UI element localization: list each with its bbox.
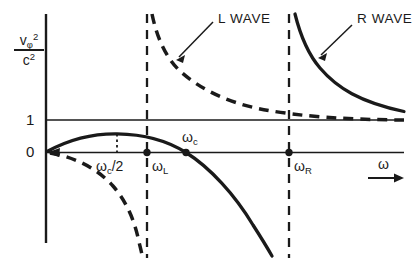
omega-c-subscript: c — [193, 136, 198, 147]
omega-c-label: ωc — [182, 130, 198, 144]
r-wave-leader-arrow — [318, 25, 352, 61]
r-wave-high-branch — [295, 14, 404, 112]
dispersion-diagram-figure: vφ2 c2 1 0 L WAVE R WAVE ωc/2 ωL ωc ωR ω — [0, 0, 419, 265]
l-wave-high-branch — [152, 14, 404, 120]
omega-c-marker — [182, 149, 189, 156]
y-axis-label-numerator: vφ2 — [12, 33, 46, 48]
omega-c-half-label: ωc/2 — [96, 159, 123, 173]
l-wave-leader-arrow — [176, 22, 213, 63]
l-wave-label: L WAVE — [218, 12, 271, 26]
y-axis-label-denominator: c2 — [12, 53, 46, 67]
numerator-exponent: 2 — [33, 31, 38, 42]
r-wave-label: R WAVE — [357, 12, 412, 26]
omega-L-label: ωL — [152, 159, 168, 173]
omega-R-marker — [285, 149, 292, 156]
omega-L-marker — [143, 149, 150, 156]
omega-R-subscript: R — [305, 165, 312, 176]
omega-axis-arrow — [368, 174, 404, 183]
omega-c-half-subscript: c — [107, 165, 112, 176]
omega-L-subscript: L — [163, 165, 168, 176]
omega-R-label: ωR — [294, 159, 312, 173]
y-tick-label-zero: 0 — [26, 144, 34, 159]
phi-subscript: φ — [27, 39, 33, 50]
x-axis-label: ω — [378, 157, 389, 171]
y-tick-label-one: 1 — [26, 112, 34, 127]
plot-canvas — [0, 0, 419, 265]
denominator-exponent: 2 — [30, 51, 35, 62]
y-axis-label: vφ2 c2 — [12, 33, 46, 67]
